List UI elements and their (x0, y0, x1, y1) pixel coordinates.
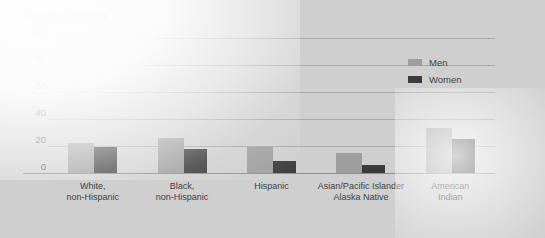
chart-legend: MenWomen (408, 57, 462, 91)
x-axis-label: AmericanIndian (390, 181, 510, 203)
legend-label: Women (429, 74, 462, 85)
legend-swatch-women (408, 76, 422, 83)
bar-group (316, 38, 405, 173)
bar-group (48, 38, 137, 173)
bar-men (426, 128, 452, 173)
x-axis-label-line2: non-Hispanic (122, 192, 242, 203)
bar-women (362, 165, 385, 173)
chart-title: Percent of persons (25, 10, 108, 21)
bar-women (273, 161, 296, 173)
x-axis-line (23, 173, 495, 174)
y-axis-tick-label: 100 (22, 26, 46, 37)
y-axis-tick-label: 80 (22, 53, 46, 64)
bar-men (247, 147, 273, 173)
y-axis-tick-label: 20 (22, 134, 46, 145)
bar-group (137, 38, 226, 173)
bar-women (94, 147, 117, 173)
bar-men (336, 153, 362, 173)
bar-women (184, 149, 207, 173)
x-axis-label-line1: American (390, 181, 510, 192)
bar-women (452, 139, 475, 173)
y-axis-tick-label: 0 (22, 161, 46, 172)
y-axis-tick-label: 60 (22, 80, 46, 91)
y-axis-tick-label: 40 (22, 107, 46, 118)
bar-men (158, 138, 184, 173)
legend-swatch-men (408, 59, 422, 66)
legend-item: Women (408, 74, 462, 85)
bar-men (68, 143, 94, 173)
legend-item: Men (408, 57, 462, 68)
legend-label: Men (429, 57, 447, 68)
bar-group (227, 38, 316, 173)
x-axis-label-line2: Indian (390, 192, 510, 203)
